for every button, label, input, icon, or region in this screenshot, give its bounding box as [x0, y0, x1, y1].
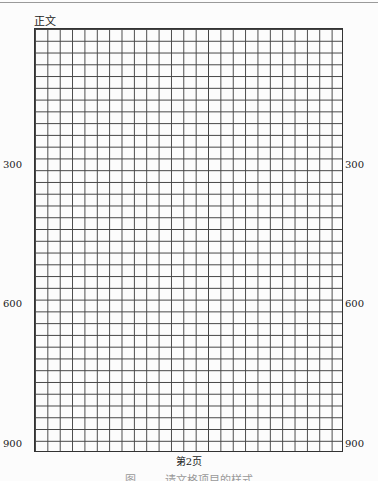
row-count-label-left-300: 300 [3, 159, 22, 170]
row-count-label-right-900: 900 [345, 438, 364, 449]
row-count-label-right-600: 600 [345, 298, 364, 309]
figure-caption: 图 …… 请文格项目的样式 [0, 474, 378, 481]
section-label: 正文 [34, 12, 56, 28]
row-count-label-left-600: 600 [3, 298, 22, 309]
manuscript-grid [34, 28, 343, 452]
row-count-label-right-300: 300 [345, 159, 364, 170]
page-number: 第2页 [0, 453, 378, 468]
page-top-border [0, 2, 378, 3]
row-count-label-left-900: 900 [3, 438, 22, 449]
